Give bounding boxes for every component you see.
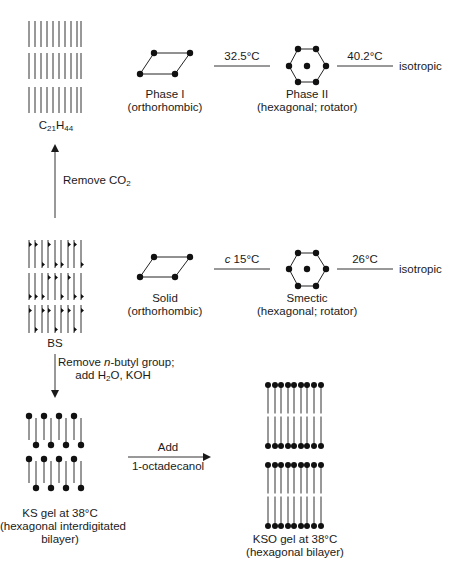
- solid-subtitle: (orthorhombic): [120, 305, 210, 318]
- ks-gel-bilayer-icon: [26, 413, 84, 491]
- smectic-title: Smectic: [257, 292, 357, 305]
- solid-orthorhombic-icon: [137, 254, 193, 280]
- remove-butyl-label: Remove n-butyl group; add H2O, KOH: [58, 356, 168, 382]
- c21h44-label: C21H44: [33, 119, 79, 132]
- diagram-graphics: [0, 0, 455, 579]
- bs-lattice-icon: [29, 240, 84, 333]
- isotropic-label-middle: isotropic: [399, 263, 442, 276]
- smectic-subtitle: (hexagonal; rotator): [257, 305, 357, 318]
- phase1-orthorhombic-icon: [137, 50, 193, 77]
- phase1-title: Phase I: [120, 88, 210, 101]
- phase1-label: Phase I (orthorhombic): [120, 88, 210, 114]
- smectic-isotropic-temp: 26°C: [337, 253, 393, 266]
- phase2-hexagonal-icon: [286, 46, 329, 85]
- transition1-temp: 32.5°C: [214, 50, 270, 63]
- kso-gel-label: KSO gel at 38°C (hexagonal bilayer): [245, 533, 345, 559]
- c21h44-lattice-icon: [29, 21, 81, 113]
- phase2-title: Phase II: [257, 88, 357, 101]
- isotropic-label-top: isotropic: [399, 60, 442, 73]
- add-label: Add: [128, 441, 208, 454]
- phase2-subtitle: (hexagonal; rotator): [257, 101, 357, 114]
- solid-title: Solid: [120, 292, 210, 305]
- ks-gel-label: KS gel at 38°C (hexagonal interdigitated…: [0, 507, 120, 546]
- solid-smectic-temp: c 15°C: [214, 253, 270, 266]
- bs-label: BS: [40, 337, 70, 350]
- remove-co2-label: Remove CO2: [63, 174, 131, 187]
- octadecanol-label: 1-octadecanol: [128, 460, 208, 473]
- kso-gel-bilayer-icon: [262, 382, 326, 529]
- transition2-temp: 40.2°C: [337, 50, 393, 63]
- phase2-label: Phase II (hexagonal; rotator): [257, 88, 357, 114]
- solid-label: Solid (orthorhombic): [120, 292, 210, 318]
- smectic-hexagonal-icon: [286, 250, 329, 289]
- smectic-label: Smectic (hexagonal; rotator): [257, 292, 357, 318]
- phase1-subtitle: (orthorhombic): [120, 101, 210, 114]
